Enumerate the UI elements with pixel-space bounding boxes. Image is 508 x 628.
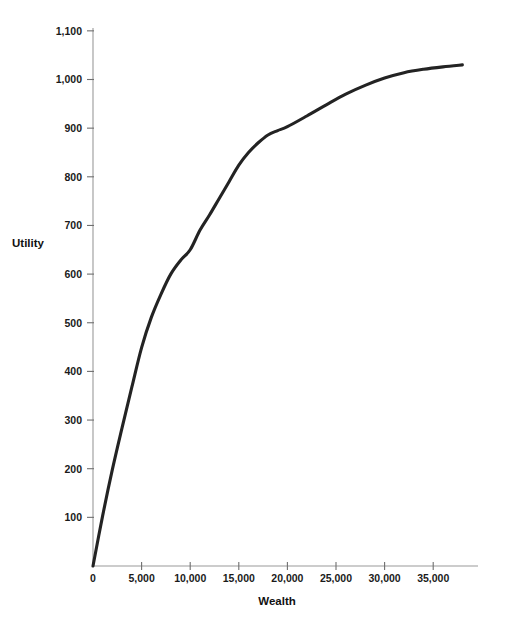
x-axis-tick-labels: 05,00010,00015,00020,00025,00030,00035,0… — [90, 572, 449, 584]
x-tick-label: 15,000 — [223, 572, 255, 584]
y-tick-label: 500 — [64, 317, 82, 329]
y-tick-label: 600 — [64, 268, 82, 280]
x-axis-title: Wealth — [258, 595, 296, 607]
x-tick-label: 10,000 — [174, 572, 206, 584]
y-tick-label: 1,100 — [56, 25, 82, 37]
utility-curve-path — [93, 65, 462, 566]
y-tick-label: 1,000 — [56, 73, 82, 85]
chart-canvas: 1002003004005006007008009001,0001,100 05… — [0, 0, 508, 628]
x-tick-label: 25,000 — [320, 572, 352, 584]
y-axis-title: Utility — [12, 237, 45, 249]
utility-wealth-chart: 1002003004005006007008009001,0001,100 05… — [0, 0, 508, 628]
y-tick-label: 800 — [64, 171, 82, 183]
y-tick-label: 700 — [64, 219, 82, 231]
y-tick-label: 100 — [64, 511, 82, 523]
x-tick-label: 0 — [90, 572, 96, 584]
x-tick-label: 5,000 — [128, 572, 154, 584]
y-tick-label: 400 — [64, 365, 82, 377]
y-axis-tick-labels: 1002003004005006007008009001,0001,100 — [56, 25, 82, 524]
utility-curve — [93, 65, 462, 566]
y-tick-label: 300 — [64, 414, 82, 426]
x-tick-label: 20,000 — [271, 572, 303, 584]
x-tick-label: 35,000 — [417, 572, 449, 584]
x-tick-label: 30,000 — [369, 572, 401, 584]
y-tick-label: 900 — [64, 122, 82, 134]
y-tick-label: 200 — [64, 463, 82, 475]
